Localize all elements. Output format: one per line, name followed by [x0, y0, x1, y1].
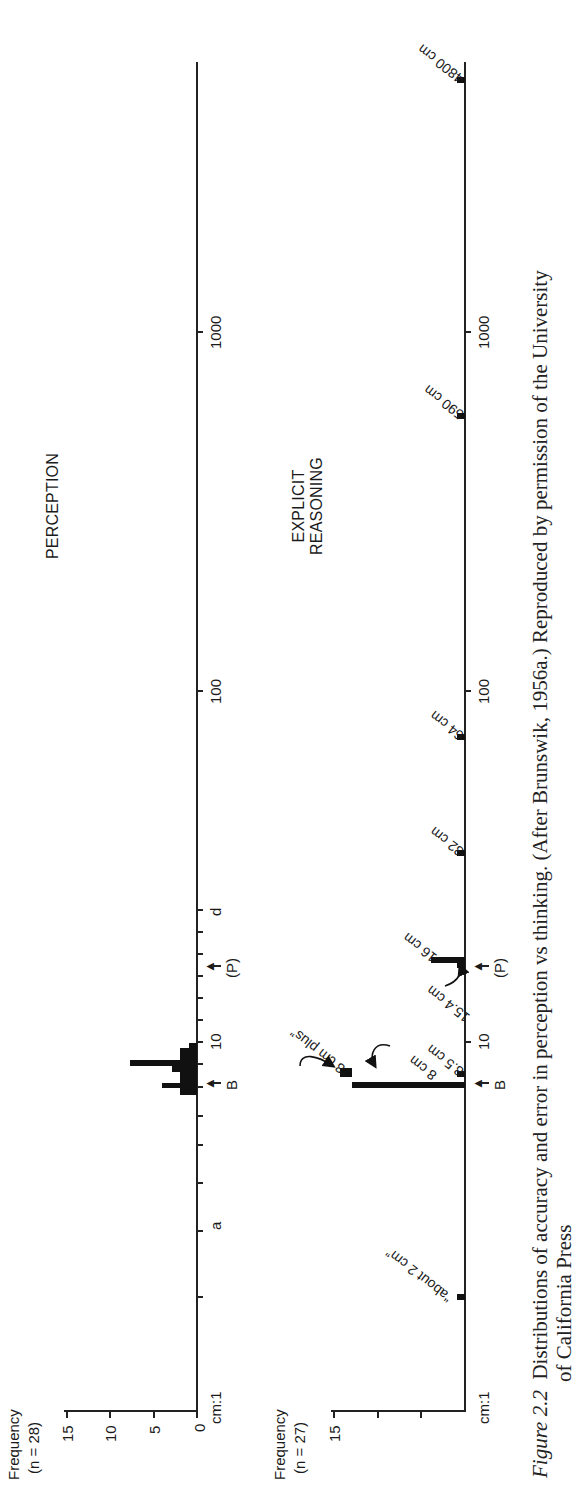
reasoning-title-line1: EXPLICIT	[290, 406, 308, 606]
arrow-8cm-icon	[372, 1045, 390, 1066]
reasoning-title-line2: REASONING	[308, 406, 326, 606]
arrow-8cm-plus-icon	[300, 1057, 333, 1066]
caption-text-1: Distributions of accuracy and error in p…	[528, 270, 552, 1379]
figure-caption: Figure 2.2 Distributions of accuracy and…	[528, 8, 576, 1478]
arrow-15-4cm-icon	[445, 966, 461, 986]
caption-line-1: Figure 2.2 Distributions of accuracy and…	[528, 8, 552, 1478]
annotation-arrows	[0, 0, 585, 1486]
caption-line-2: of California Press	[552, 8, 576, 1478]
figure-stage: 15 10 5 0 Frequency (n = 28) cm:1 a 10 d…	[0, 0, 585, 1486]
reasoning-title: EXPLICIT REASONING	[290, 406, 327, 606]
caption-label: Figure 2.2	[528, 1390, 552, 1478]
caption-text-2: of California Press	[552, 1225, 576, 1382]
